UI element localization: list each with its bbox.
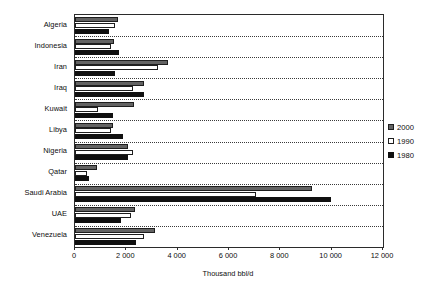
bar-algeria-1980 (75, 29, 109, 34)
bar-uae-1980 (75, 218, 121, 223)
bar-group-indonesia (75, 36, 383, 57)
x-tick-mark (177, 247, 178, 250)
legend-item-1990[interactable]: 1990 (388, 134, 438, 148)
category-label-nigeria: Nigeria (0, 147, 67, 155)
plot-inner (75, 15, 383, 247)
bar-indonesia-1980 (75, 50, 119, 55)
bar-venezuela-2000 (75, 228, 155, 233)
bar-uae-1990 (75, 213, 131, 218)
legend-label: 1980 (397, 151, 414, 160)
legend-label: 1990 (397, 137, 414, 146)
bar-iran-2000 (75, 60, 168, 65)
legend-label: 2000 (397, 123, 414, 132)
x-tick-mark (125, 247, 126, 250)
bar-venezuela-1990 (75, 234, 144, 239)
x-tick-label: 6 000 (219, 251, 238, 260)
bar-group-uae (75, 205, 383, 226)
x-tick-label: 10 000 (319, 251, 342, 260)
bar-algeria-1990 (75, 23, 115, 28)
plot-area (74, 14, 384, 248)
x-tick-mark (331, 247, 332, 250)
bar-group-nigeria (75, 142, 383, 163)
legend-item-2000[interactable]: 2000 (388, 120, 438, 134)
category-axis-labels: AlgeriaIndonesiaIranIraqKuwaitLibyaNiger… (0, 14, 70, 246)
bar-algeria-2000 (75, 17, 118, 22)
bar-indonesia-1990 (75, 44, 111, 49)
category-label-venezuela: Venezuela (0, 231, 67, 239)
category-label-uae: UAE (0, 210, 67, 218)
bar-group-venezuela (75, 226, 383, 247)
bar-qatar-2000 (75, 165, 97, 170)
bar-saudi-arabia-2000 (75, 186, 312, 191)
bar-nigeria-1980 (75, 155, 128, 160)
chart-legend: 200019901980 (388, 120, 438, 162)
bar-group-libya (75, 120, 383, 141)
legend-swatch-icon-2000 (388, 124, 394, 130)
category-label-kuwait: Kuwait (0, 105, 67, 113)
bar-nigeria-1990 (75, 150, 133, 155)
bar-venezuela-1980 (75, 240, 136, 245)
bar-group-iran (75, 57, 383, 78)
x-axis-ticks: 02 0004 0006 0008 00010 00012 000 (74, 247, 382, 261)
bar-saudi-arabia-1990 (75, 192, 256, 197)
category-label-libya: Libya (0, 126, 67, 134)
category-label-algeria: Algeria (0, 21, 67, 29)
bar-qatar-1980 (75, 176, 89, 181)
category-label-qatar: Qatar (0, 168, 67, 176)
x-tick-label: 0 (72, 251, 76, 260)
bar-iraq-1990 (75, 86, 133, 91)
x-tick-mark (228, 247, 229, 250)
x-tick-label: 4 000 (167, 251, 186, 260)
bar-nigeria-2000 (75, 144, 128, 149)
legend-item-1980[interactable]: 1980 (388, 148, 438, 162)
bar-iran-1990 (75, 65, 158, 70)
category-label-iran: Iran (0, 63, 67, 71)
category-label-iraq: Iraq (0, 84, 67, 92)
category-label-saudi-arabia: Saudi Arabia (0, 189, 67, 197)
x-axis-title: Thousand bbl/d (74, 269, 382, 278)
category-label-indonesia: Indonesia (0, 42, 67, 50)
bar-uae-2000 (75, 207, 135, 212)
legend-swatch-icon-1980 (388, 152, 394, 158)
bar-group-qatar (75, 163, 383, 184)
bar-group-kuwait (75, 99, 383, 120)
bar-kuwait-1980 (75, 113, 113, 118)
bar-indonesia-2000 (75, 39, 114, 44)
bar-kuwait-1990 (75, 107, 98, 112)
bar-libya-2000 (75, 123, 113, 128)
x-tick-label: 8 000 (270, 251, 289, 260)
bar-libya-1980 (75, 134, 123, 139)
bar-iraq-1980 (75, 92, 144, 97)
bar-group-iraq (75, 78, 383, 99)
bar-libya-1990 (75, 128, 111, 133)
bar-chart: AlgeriaIndonesiaIranIraqKuwaitLibyaNiger… (0, 0, 438, 301)
bar-iraq-2000 (75, 81, 144, 86)
x-tick-mark (382, 247, 383, 250)
x-tick-label: 2 000 (116, 251, 135, 260)
bar-qatar-1990 (75, 171, 87, 176)
bar-group-algeria (75, 15, 383, 36)
bar-iran-1980 (75, 71, 115, 76)
bar-group-saudi-arabia (75, 184, 383, 205)
x-tick-mark (279, 247, 280, 250)
bar-saudi-arabia-1980 (75, 197, 331, 202)
x-tick-mark (74, 247, 75, 250)
bar-kuwait-2000 (75, 102, 134, 107)
legend-swatch-icon-1990 (388, 138, 394, 144)
x-tick-label: 12 000 (371, 251, 394, 260)
